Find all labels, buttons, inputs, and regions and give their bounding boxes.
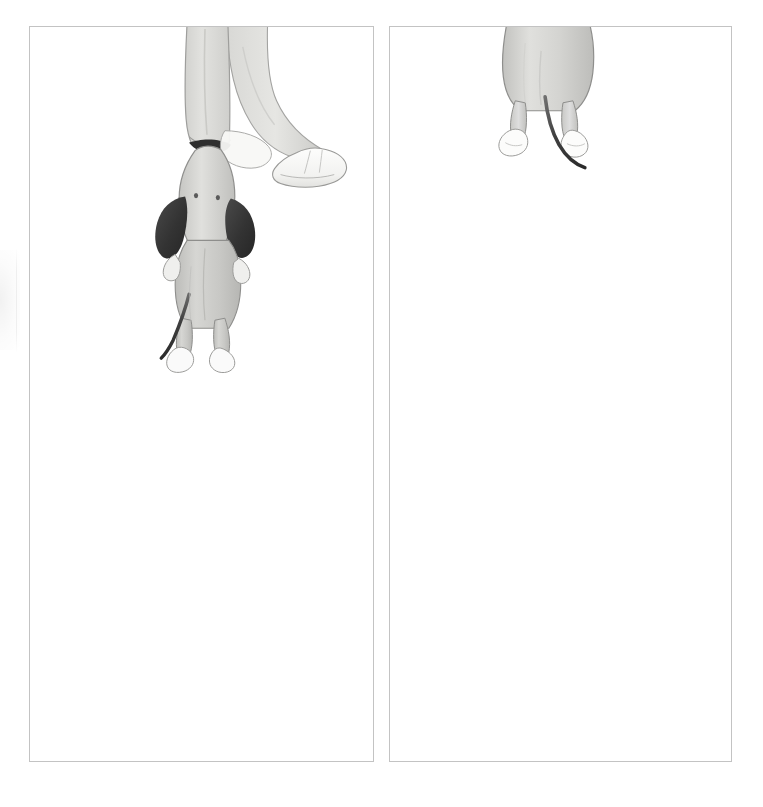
right-illustration-panel[interactable] (389, 26, 732, 762)
gutter-shadow (0, 250, 20, 350)
right-caption-layer (390, 27, 731, 761)
left-caption-layer (30, 27, 373, 761)
left-illustration-panel[interactable] (29, 26, 374, 762)
book-spread (0, 0, 763, 807)
gutter-crease-line (16, 248, 17, 353)
